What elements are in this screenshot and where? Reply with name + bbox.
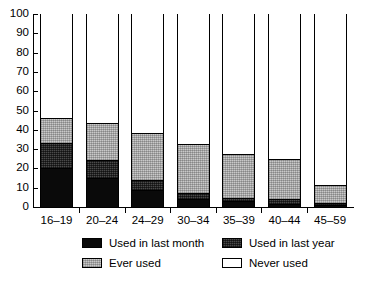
bar-segment [132,14,163,133]
bar-segment [223,154,254,198]
y-axis-tick-label: 70 [3,66,29,78]
legend-label: Used in last month [109,237,204,249]
bar-20–24 [86,14,119,207]
black-swatch-icon [82,238,102,248]
bar-45–59 [314,14,347,207]
bar-segment [223,198,254,201]
x-axis-tick-label: 35–39 [215,214,263,226]
x-axis-tick-label: 24–29 [124,214,172,226]
bar-40–44 [268,14,301,207]
y-axis-tick-label: 80 [3,47,29,59]
x-axis-tick-label: 45–59 [306,214,354,226]
x-axis-tick-label: 20–24 [78,214,126,226]
legend-item-used-in-last-month: Used in last month [82,236,204,250]
bar-segment [41,143,72,168]
bar-segment [87,160,118,178]
bar-segment [41,14,72,118]
y-axis-tick-label: 50 [3,105,29,117]
x-axis-tick [216,208,217,213]
plot-area: 0102030405060708090100 16–1920–2424–2930… [0,0,369,230]
bar-segment [178,144,209,193]
chart-legend: Used in last month Used in last year Eve… [0,232,369,278]
x-axis-tick-label: 16–19 [33,214,81,226]
bar-segment [269,199,300,204]
dark-gray-swatch-icon [222,238,242,248]
bar-segment [315,205,346,207]
legend-item-used-in-last-year: Used in last year [222,236,335,250]
x-axis-line [33,207,354,208]
y-axis-tick [33,33,38,34]
bar-segment [223,201,254,207]
x-axis-tick [307,208,308,213]
y-axis-tick [33,149,38,150]
y-axis-tick-label: 40 [3,124,29,136]
bar-segment [315,185,346,203]
legend-label: Used in last year [249,237,335,249]
y-axis-tick [33,72,38,73]
y-axis-tick-label: 60 [3,85,29,97]
bar-segment [87,123,118,160]
y-axis-tick [33,130,38,131]
y-axis-tick [33,188,38,189]
bar-segment [132,190,163,207]
y-axis-tick [33,168,38,169]
y-axis-tick-label: 90 [3,27,29,39]
bar-segment [269,204,300,207]
y-axis-tick-label: 10 [3,182,29,194]
y-axis-tick-label: 30 [3,143,29,155]
bar-segment [269,159,300,200]
y-axis-tick [33,91,38,92]
y-axis-tick-label: 100 [3,8,29,20]
legend-label: Never used [249,257,308,269]
bar-segment [315,203,346,205]
bar-segment [178,14,209,144]
y-axis-tick [33,111,38,112]
bar-35–39 [222,14,255,207]
y-axis-tick-label: 0 [3,201,29,213]
x-axis-tick-label: 30–34 [169,214,217,226]
legend-item-never-used: Never used [222,256,308,270]
y-axis-tick [33,14,38,15]
bar-segment [178,193,209,199]
y-axis-tick-label: 20 [3,162,29,174]
white-swatch-icon [222,258,242,268]
light-gray-swatch-icon [82,258,102,268]
bar-segment [315,14,346,185]
bar-segment [87,178,118,207]
bar-segment [41,168,72,207]
x-axis-tick [125,208,126,213]
bar-segment [269,14,300,159]
legend-item-ever-used: Ever used [82,256,161,270]
bar-segment [132,133,163,180]
y-axis-tick [33,53,38,54]
bar-segment [178,199,209,207]
y-axis-tick [33,207,38,208]
legend-label: Ever used [109,257,161,269]
bar-segment [223,14,254,154]
bar-segment [87,14,118,123]
stacked-bar-chart-figure: 0102030405060708090100 16–1920–2424–2930… [0,0,369,281]
bar-24–29 [131,14,164,207]
x-axis-tick-label: 40–44 [261,214,309,226]
x-axis-tick [170,208,171,213]
x-axis-tick [79,208,80,213]
bar-30–34 [177,14,210,207]
bar-segment [41,118,72,143]
bar-segment [132,180,163,190]
x-axis-tick [261,208,262,213]
bar-16–19 [40,14,73,207]
